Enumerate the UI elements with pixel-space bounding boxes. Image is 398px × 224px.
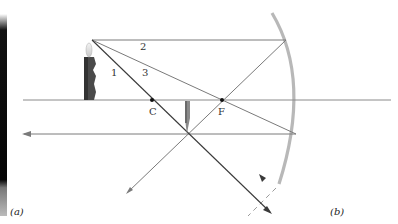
ray-3-label: 3 [142,68,148,78]
photo-strip [0,14,7,216]
ray-2-label: 2 [140,42,146,52]
panel-label-a: (a) [10,207,24,217]
diagram-canvas [0,0,398,224]
candle-object [84,43,96,100]
focal-point [220,98,224,102]
ray-3 [22,40,296,137]
f-label: F [218,107,225,117]
center-of-curvature-point [150,98,154,102]
ray-diagram: 1 2 3 C F (a) (b) [0,0,398,224]
c-label: C [149,107,157,117]
ray-1 [92,40,272,214]
inverted-image [185,101,190,134]
panel-label-b: (b) [330,207,344,217]
concave-mirror [248,13,294,216]
ray-1-label: 1 [111,68,117,78]
